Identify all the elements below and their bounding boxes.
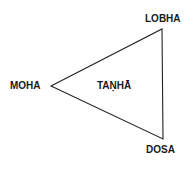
vertex-label-lobha: LOBHA	[145, 13, 181, 25]
vertex-label-moha: MOHA	[10, 80, 41, 92]
vertex-label-dosa: DOSA	[146, 144, 175, 156]
center-label-tanha: TAṆHĀ	[97, 80, 131, 92]
